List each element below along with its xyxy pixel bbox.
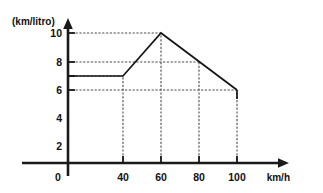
guide-lines-vertical	[123, 33, 237, 163]
y-tick-label-10: 10	[50, 27, 62, 39]
y-tick-label-6: 6	[56, 84, 62, 96]
y-tick-label-8: 8	[56, 56, 62, 68]
y-axis-arrow-icon	[63, 18, 73, 29]
y-axis-title: (km/litro)	[12, 16, 55, 27]
x-tick-label-60: 60	[155, 171, 167, 183]
x-axis-title: km/h	[267, 172, 290, 183]
chart-svg: 10 8 6 4 2 0 40 60 80 100 (km/litro) km/…	[0, 0, 323, 193]
y-axis	[63, 18, 73, 176]
y-tick-label-4: 4	[56, 112, 62, 124]
chart-figure: 10 8 6 4 2 0 40 60 80 100 (km/litro) km/…	[0, 0, 323, 193]
y-tick-label-2: 2	[56, 140, 62, 152]
x-tick-label-0: 0	[55, 171, 61, 183]
x-tick-label-100: 100	[228, 171, 246, 183]
x-axis	[22, 158, 289, 168]
x-axis-arrow-icon	[278, 158, 289, 168]
x-tick-label-40: 40	[117, 171, 129, 183]
x-tick-label-80: 80	[193, 171, 205, 183]
image-credit: Reprodução/Unienses, 2008	[316, 0, 322, 2]
